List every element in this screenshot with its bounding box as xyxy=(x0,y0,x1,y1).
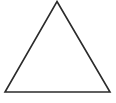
triangle-shape xyxy=(5,2,110,93)
diagram-canvas xyxy=(0,0,116,103)
triangle-diagram xyxy=(0,0,116,103)
